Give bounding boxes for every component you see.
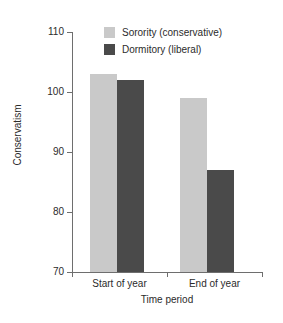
x-tick-middle (167, 272, 168, 277)
bar-chart: Sorority (conservative) Dormitory (liber… (0, 0, 283, 323)
y-tick-label-wrap: 90 (26, 147, 64, 157)
x-tick-end (262, 272, 263, 277)
y-tick-90 (67, 152, 72, 153)
y-axis-title: Conservatism (13, 90, 23, 180)
y-tick-label-70: 70 (28, 267, 64, 277)
y-tick-100 (67, 92, 72, 93)
y-tick-label-110: 110 (28, 27, 64, 37)
y-tick-label-wrap: 100 (26, 87, 64, 97)
x-category-label-end: End of year (167, 279, 262, 289)
x-axis-title: Time period (72, 295, 262, 305)
y-tick-label-90: 90 (28, 147, 64, 157)
bar-start-of-year-sorority-conservative (90, 74, 117, 272)
bar-end-of-year-dormitory-liberal (207, 170, 234, 272)
y-tick-label-wrap: 70 (26, 267, 64, 277)
bar-end-of-year-sorority-conservative (180, 98, 207, 272)
y-tick-label-100: 100 (28, 87, 64, 97)
y-tick-label-wrap: 80 (26, 207, 64, 217)
y-tick-110 (67, 32, 72, 33)
y-tick-label-80: 80 (28, 207, 64, 217)
y-axis-line (72, 32, 73, 273)
bar-start-of-year-dormitory-liberal (117, 80, 144, 272)
plot-area: 110100908070 Start of year End of year C… (0, 0, 283, 323)
y-tick-label-wrap: 110 (26, 27, 64, 37)
y-tick-80 (67, 212, 72, 213)
x-tick-start (72, 272, 73, 277)
x-category-label-start: Start of year (72, 279, 167, 289)
